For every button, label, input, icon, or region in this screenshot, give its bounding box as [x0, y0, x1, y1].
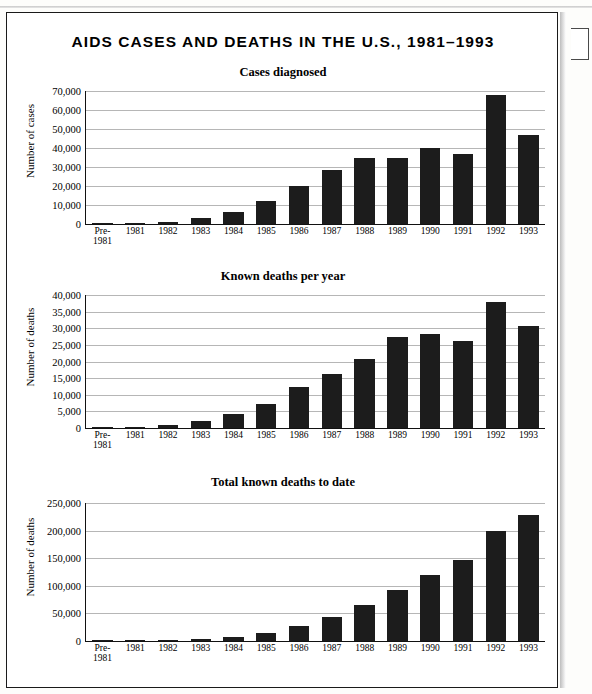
x-tick-label: 1988	[355, 227, 374, 237]
y-tick-label: 0	[76, 219, 81, 230]
bar-slot: 1982	[152, 295, 185, 428]
y-tick-label: 100,000	[47, 580, 81, 591]
x-tick-label: 1992	[486, 431, 505, 441]
bar	[518, 326, 538, 428]
bar-slot: 1987	[315, 295, 348, 428]
bar	[453, 560, 473, 641]
x-tick-label: 1988	[355, 644, 374, 654]
y-tick-label: 15,000	[52, 373, 81, 384]
x-tick-label: 1983	[191, 644, 210, 654]
bar	[354, 359, 374, 428]
bar-slot: 1990	[414, 503, 447, 641]
bar-slot: 1982	[152, 503, 185, 641]
x-tick-label: 1989	[388, 431, 407, 441]
bar	[322, 170, 342, 224]
bar-slot: 1992	[479, 295, 512, 428]
bar-slot: Pre- 1981	[86, 503, 119, 641]
x-tick-label: 1989	[388, 644, 407, 654]
x-tick-label: Pre- 1981	[93, 644, 112, 664]
bar	[256, 201, 276, 224]
bar-slot: 1983	[184, 503, 217, 641]
bar-slot: 1991	[447, 295, 480, 428]
page-corner-mark	[571, 28, 589, 60]
bar	[158, 640, 178, 641]
bar	[125, 223, 145, 224]
bar	[191, 639, 211, 641]
bar	[191, 421, 211, 428]
bar	[354, 605, 374, 641]
bar	[518, 135, 538, 224]
x-tick-label: 1981	[126, 227, 145, 237]
y-axis-label: Number of deaths	[24, 482, 36, 632]
y-axis-label: Number of cases	[24, 66, 36, 216]
bar-slot: 1987	[315, 91, 348, 224]
y-tick-label: 30,000	[52, 162, 81, 173]
y-tick-label: 20,000	[52, 356, 81, 367]
x-tick-label: 1991	[453, 227, 472, 237]
bar	[92, 223, 112, 224]
x-tick-label: 1984	[224, 227, 243, 237]
page-top-rule	[0, 6, 592, 8]
bar-slot: 1985	[250, 91, 283, 224]
bar-series: Pre- 19811981198219831984198519861987198…	[86, 91, 545, 224]
bar	[387, 337, 407, 428]
y-tick-label: 200,000	[47, 525, 81, 536]
bar-slot: 1983	[184, 91, 217, 224]
x-tick-label: 1989	[388, 227, 407, 237]
plot-area: 05,00010,00015,00020,00025,00030,00035,0…	[85, 295, 545, 429]
bar	[453, 341, 473, 428]
y-tick-label: 0	[76, 423, 81, 434]
y-tick-label: 40,000	[52, 290, 81, 301]
x-tick-label: Pre- 1981	[93, 431, 112, 451]
chart-cases-diagnosed: Cases diagnosedNumber of cases010,00020,…	[7, 65, 559, 265]
bar-slot: 1985	[250, 503, 283, 641]
bar-slot: Pre- 1981	[86, 295, 119, 428]
bar-slot: 1991	[447, 91, 480, 224]
bar-slot: 1989	[381, 295, 414, 428]
bar	[322, 617, 342, 641]
bar-slot: 1984	[217, 503, 250, 641]
bar-slot: 1992	[479, 91, 512, 224]
chart-known-deaths-per-year: Known deaths per yearNumber of deaths05,…	[7, 269, 559, 471]
x-tick-label: 1985	[257, 644, 276, 654]
y-tick-label: 50,000	[52, 124, 81, 135]
y-tick-label: 35,000	[52, 306, 81, 317]
bar	[486, 302, 506, 428]
bar-slot: 1985	[250, 295, 283, 428]
x-tick-label: 1993	[519, 431, 538, 441]
bar	[223, 637, 243, 641]
bar-slot: 1981	[119, 295, 152, 428]
bar-slot: 1988	[348, 503, 381, 641]
figure-title: AIDS CASES AND DEATHS IN THE U.S., 1981–…	[7, 33, 559, 51]
x-tick-label: 1987	[322, 227, 341, 237]
bar	[486, 95, 506, 224]
bar-slot: 1990	[414, 91, 447, 224]
x-tick-label: 1981	[126, 644, 145, 654]
y-tick-label: 10,000	[52, 389, 81, 400]
x-tick-label: 1993	[519, 227, 538, 237]
page-edge-shadow	[560, 12, 566, 688]
chart-total-known-deaths-to-date: Total known deaths to dateNumber of deat…	[7, 475, 559, 685]
chart-subtitle: Known deaths per year	[7, 269, 559, 284]
x-tick-label: 1987	[322, 644, 341, 654]
bar-slot: 1983	[184, 295, 217, 428]
bar-slot: 1993	[512, 295, 545, 428]
bar-slot: 1993	[512, 503, 545, 641]
y-tick-label: 20,000	[52, 181, 81, 192]
y-tick-label: 50,000	[52, 608, 81, 619]
x-tick-label: 1986	[290, 431, 309, 441]
bar-slot: 1984	[217, 295, 250, 428]
x-tick-label: 1981	[126, 431, 145, 441]
bar-series: Pre- 19811981198219831984198519861987198…	[86, 295, 545, 428]
x-tick-label: 1990	[421, 431, 440, 441]
x-tick-label: 1990	[421, 227, 440, 237]
bar	[125, 640, 145, 641]
x-tick-label: 1982	[158, 644, 177, 654]
plot-area: 050,000100,000150,000200,000250,000Pre- …	[85, 503, 545, 642]
x-tick-label: 1987	[322, 431, 341, 441]
bar	[387, 590, 407, 641]
x-tick-label: 1990	[421, 644, 440, 654]
x-tick-label: 1986	[290, 227, 309, 237]
x-tick-label: 1992	[486, 644, 505, 654]
bar	[158, 425, 178, 428]
